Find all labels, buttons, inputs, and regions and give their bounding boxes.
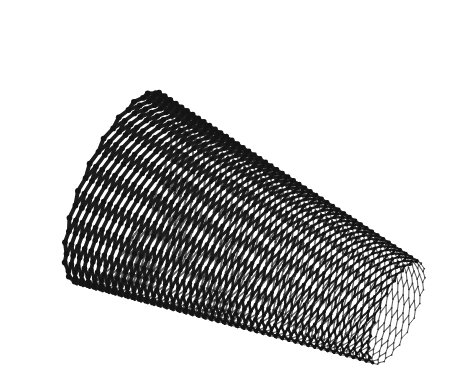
carbon-atom — [272, 171, 277, 176]
carbon-atom — [346, 216, 350, 220]
carbon-atom — [295, 324, 299, 328]
carbon-atom — [198, 239, 203, 244]
carbon-atom — [310, 314, 314, 318]
carbon-atom — [225, 142, 230, 147]
carbon-atom — [356, 268, 359, 271]
carbon-atom — [322, 310, 326, 314]
carbon-atom — [235, 305, 239, 309]
carbon-atom — [174, 277, 179, 282]
carbon-atom — [154, 287, 159, 292]
carbon-atom — [293, 206, 297, 210]
carbon-atom — [314, 298, 318, 302]
carbon-atom — [423, 289, 425, 291]
carbon-atom — [119, 247, 124, 252]
carbon-atom — [334, 296, 338, 300]
carbon-atom — [273, 185, 277, 189]
carbon-atom — [385, 292, 388, 295]
carbon-atom — [385, 357, 387, 359]
carbon-atom — [282, 319, 286, 323]
carbon-atom — [213, 170, 218, 175]
carbon-atom — [389, 269, 392, 272]
carbon-atom — [415, 260, 418, 263]
carbon-atom — [138, 228, 143, 233]
carbon-atom — [339, 343, 342, 346]
carbon-atom — [315, 288, 319, 292]
carbon-atom — [291, 245, 295, 249]
carbon-atom — [162, 102, 168, 108]
carbon-atom — [280, 312, 284, 316]
carbon-atom — [352, 223, 356, 227]
carbon-atom — [392, 245, 395, 248]
carbon-atom — [237, 278, 241, 282]
carbon-atom — [269, 192, 273, 196]
carbon-atom — [215, 208, 220, 213]
carbon-atom — [409, 256, 412, 259]
carbon-atom — [216, 259, 221, 264]
carbon-atom — [313, 335, 317, 339]
carbon-atom — [184, 307, 189, 312]
carbon-atom — [387, 347, 389, 349]
carbon-atom — [328, 289, 330, 291]
carbon-atom — [359, 298, 362, 301]
carbon-atom — [323, 204, 327, 208]
carbon-atom — [260, 305, 264, 309]
carbon-atom — [371, 252, 374, 255]
carbon-atom — [83, 257, 89, 263]
carbon-atom — [277, 175, 282, 180]
carbon-atom — [305, 213, 309, 217]
carbon-atom — [362, 263, 365, 266]
carbon-atom — [277, 302, 281, 306]
carbon-atom — [222, 146, 227, 151]
carbon-atom — [112, 281, 117, 286]
carbon-atom — [424, 277, 426, 279]
carbon-atom — [159, 223, 164, 228]
carbon-atom — [224, 314, 228, 318]
carbon-atom — [299, 325, 301, 327]
carbon-atom — [243, 319, 247, 323]
carbon-atom — [364, 256, 367, 259]
carbon-atom — [224, 216, 227, 219]
carbon-atom — [381, 281, 384, 284]
carbon-atom — [214, 135, 219, 140]
carbon-atom — [368, 275, 371, 278]
carbon-atom — [393, 342, 395, 344]
carbon-atom — [106, 230, 111, 235]
carbon-atom — [300, 239, 304, 243]
carbon-atom — [259, 230, 263, 234]
carbon-atom — [108, 273, 113, 278]
carbon-atom — [403, 286, 405, 288]
carbon-atom — [403, 259, 406, 262]
carbon-atom — [79, 277, 85, 283]
carbon-atom — [296, 335, 300, 339]
carbon-atom — [391, 252, 394, 255]
carbon-atom — [363, 339, 365, 341]
carbon-atom — [372, 348, 374, 350]
carbon-atom — [168, 105, 174, 111]
carbon-atom — [198, 275, 203, 280]
carbon-atom — [302, 283, 306, 287]
carbon-atom — [368, 266, 371, 269]
carbon-atom — [331, 246, 335, 250]
carbon-atom — [231, 276, 235, 280]
carbon-atom — [202, 176, 207, 181]
carbon-atom — [156, 98, 162, 104]
carbon-atom — [337, 258, 341, 262]
carbon-atom — [261, 197, 265, 201]
carbon-atom — [118, 288, 123, 293]
carbon-atom — [355, 352, 358, 355]
carbon-atom — [284, 253, 288, 257]
carbon-atom — [249, 190, 254, 195]
carbon-atom — [221, 186, 226, 191]
carbon-atom — [359, 338, 362, 341]
carbon-atom — [138, 294, 143, 299]
carbon-atom — [374, 269, 377, 272]
carbon-atom — [306, 242, 310, 246]
carbon-atom — [167, 291, 172, 296]
carbon-atom — [353, 313, 356, 316]
carbon-atom — [138, 185, 143, 190]
carbon-atom — [161, 272, 166, 277]
carbon-atom — [131, 292, 136, 297]
carbon-atom — [266, 168, 271, 173]
carbon-atom — [283, 179, 287, 183]
carbon-atom — [256, 327, 260, 331]
